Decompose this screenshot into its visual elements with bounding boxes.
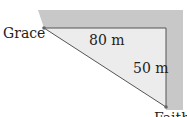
faith-label: Faith (154, 110, 187, 117)
grace-label: Grace (3, 25, 45, 41)
faith-point (164, 105, 168, 109)
right-length-label: 50 m (133, 60, 169, 76)
triangle-diagram (0, 0, 187, 117)
top-length-label: 80 m (89, 32, 125, 48)
